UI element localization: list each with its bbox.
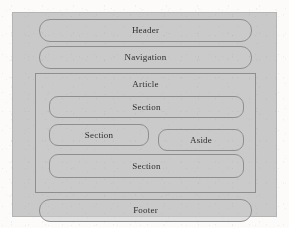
article-label: Article xyxy=(132,80,158,89)
article-section-bottom-label: Section xyxy=(132,162,160,171)
navigation-region[interactable]: Navigation xyxy=(39,46,252,69)
article-section-top[interactable]: Section xyxy=(49,96,244,118)
article-aside-label: Aside xyxy=(190,136,212,145)
article-section-bottom[interactable]: Section xyxy=(49,154,244,178)
article-region[interactable]: Article Section Section Aside Section xyxy=(35,73,256,193)
article-section-middle-label: Section xyxy=(85,131,113,140)
page-frame: Header Navigation Article Section Sectio… xyxy=(12,12,277,217)
article-section-middle[interactable]: Section xyxy=(49,124,149,146)
footer-region[interactable]: Footer xyxy=(39,199,252,222)
article-section-top-label: Section xyxy=(132,103,160,112)
header-region[interactable]: Header xyxy=(39,19,252,42)
layout-diagram-canvas: Header Navigation Article Section Sectio… xyxy=(0,0,289,228)
footer-label: Footer xyxy=(133,206,158,215)
navigation-label: Navigation xyxy=(125,53,167,62)
article-aside[interactable]: Aside xyxy=(158,129,244,151)
header-label: Header xyxy=(132,26,159,35)
